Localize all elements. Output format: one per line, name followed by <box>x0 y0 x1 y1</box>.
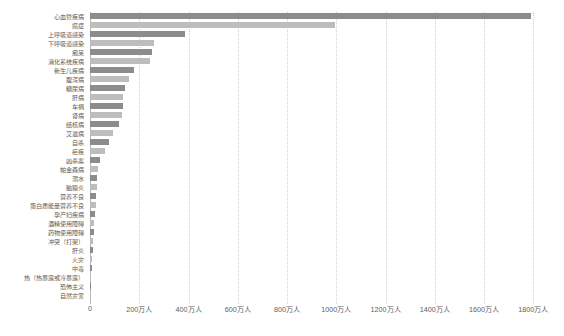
category-label-column: 心血管疾病癌症上呼吸道感染下呼吸道感染痴呆消化系统疾病新生儿疾病腹泻病糖尿病肝病… <box>0 12 88 300</box>
bar-row <box>90 120 558 129</box>
bar-痴呆 <box>90 49 152 56</box>
bar-心血管疾病 <box>90 13 531 20</box>
bar-车祸 <box>90 103 123 110</box>
category-label-肝病: 肝病 <box>72 93 84 102</box>
x-tick-label-800: 800万人 <box>274 304 300 314</box>
bar-row <box>90 273 558 282</box>
bar-结核病 <box>90 121 119 128</box>
x-tick-label-1600: 1600万人 <box>469 304 499 314</box>
bar-疟疾 <box>90 148 105 155</box>
bar-row <box>90 192 558 201</box>
bar-癌症 <box>90 22 335 29</box>
category-label-痴呆: 痴呆 <box>72 48 84 57</box>
category-label-癌症: 癌症 <box>72 21 84 30</box>
bar-自杀 <box>90 139 109 146</box>
bar-row <box>90 102 558 111</box>
x-tick-label-1000: 1000万人 <box>321 304 351 314</box>
category-label-自杀: 自杀 <box>72 138 84 147</box>
bar-row <box>90 246 558 255</box>
category-label-脑膜炎: 脑膜炎 <box>66 183 84 192</box>
bar-消化系统疾病 <box>90 58 150 65</box>
category-label-营养不良: 营养不良 <box>60 192 84 201</box>
bar-row <box>90 75 558 84</box>
bar-孕产妇疾病 <box>90 211 95 218</box>
bar-row <box>90 156 558 165</box>
bar-新生儿疾病 <box>90 67 134 74</box>
category-label-孕产妇疾病: 孕产妇疾病 <box>54 210 84 219</box>
bar-糖尿病 <box>90 85 125 92</box>
bar-row <box>90 282 558 291</box>
bar-row <box>90 174 558 183</box>
bar-row <box>90 210 558 219</box>
category-label-火灾: 火灾 <box>72 255 84 264</box>
category-label-帕金森病: 帕金森病 <box>60 165 84 174</box>
bar-row <box>90 12 558 21</box>
x-tick-label-1200: 1200万人 <box>371 304 401 314</box>
bar-上呼吸道感染 <box>90 31 185 38</box>
bar-row <box>90 147 558 156</box>
category-label-腹泻病: 腹泻病 <box>66 75 84 84</box>
bar-row <box>90 255 558 264</box>
category-label-恐怖主义: 恐怖主义 <box>60 282 84 291</box>
category-label-溺水: 溺水 <box>72 174 84 183</box>
bar-肾病 <box>90 112 122 119</box>
category-label-新生儿疾病: 新生儿疾病 <box>54 66 84 75</box>
category-label-肾病: 肾病 <box>72 111 84 120</box>
bar-下呼吸道感染 <box>90 40 154 47</box>
category-label-肝炎: 肝炎 <box>72 246 84 255</box>
x-tick-label-600: 600万人 <box>225 304 251 314</box>
bar-row <box>90 30 558 39</box>
bar-row <box>90 111 558 120</box>
bar-酒精使用障碍 <box>90 220 94 227</box>
bar-艾滋病 <box>90 130 113 137</box>
bar-冲突（打架） <box>90 238 93 245</box>
bar-row <box>90 138 558 147</box>
category-label-热（热暴露或冷暴露）: 热（热暴露或冷暴露） <box>24 273 84 282</box>
bar-肝炎 <box>90 247 93 254</box>
category-label-酒精使用障碍: 酒精使用障碍 <box>48 219 84 228</box>
category-label-车祸: 车祸 <box>72 102 84 111</box>
bar-row <box>90 237 558 246</box>
bar-恐怖主义 <box>90 283 91 290</box>
bar-溺水 <box>90 175 97 182</box>
category-label-艾滋病: 艾滋病 <box>66 129 84 138</box>
bar-自然灾害 <box>90 292 91 299</box>
causes-of-death-bar-chart: 心血管疾病癌症上呼吸道感染下呼吸道感染痴呆消化系统疾病新生儿疾病腹泻病糖尿病肝病… <box>0 0 564 336</box>
bar-row <box>90 21 558 30</box>
bar-药物使用障碍 <box>90 229 94 236</box>
bar-row <box>90 201 558 210</box>
category-label-自然灾害: 自然灾害 <box>60 291 84 300</box>
category-label-中毒: 中毒 <box>72 264 84 273</box>
chart-plot-area <box>90 12 558 300</box>
bar-凶杀案 <box>90 157 100 164</box>
bar-row <box>90 264 558 273</box>
category-label-糖尿病: 糖尿病 <box>66 84 84 93</box>
bar-row <box>90 183 558 192</box>
bar-row <box>90 57 558 66</box>
category-label-下呼吸道感染: 下呼吸道感染 <box>48 39 84 48</box>
bar-肝病 <box>90 94 123 101</box>
bar-营养不良 <box>90 193 96 200</box>
bar-腹泻病 <box>90 76 129 83</box>
category-label-心血管疾病: 心血管疾病 <box>54 12 84 21</box>
bar-row <box>90 66 558 75</box>
bar-row <box>90 39 558 48</box>
category-label-冲突（打架）: 冲突（打架） <box>48 237 84 246</box>
bar-脑膜炎 <box>90 184 97 191</box>
bar-row <box>90 129 558 138</box>
x-tick-label-200: 200万人 <box>126 304 152 314</box>
x-axis: 0200万人400万人600万人800万人1000万人1200万人1400万人1… <box>90 300 558 320</box>
category-label-药物使用障碍: 药物使用障碍 <box>48 228 84 237</box>
category-label-结核病: 结核病 <box>66 120 84 129</box>
x-tick-label-1400: 1400万人 <box>420 304 450 314</box>
bar-row <box>90 228 558 237</box>
bar-蛋白质能量营养不良 <box>90 202 96 209</box>
category-label-凶杀案: 凶杀案 <box>66 156 84 165</box>
category-label-上呼吸道感染: 上呼吸道感染 <box>48 30 84 39</box>
bar-row <box>90 219 558 228</box>
category-label-消化系统疾病: 消化系统疾病 <box>48 57 84 66</box>
bar-中毒 <box>90 265 92 272</box>
bar-row <box>90 165 558 174</box>
x-tick-label-0: 0 <box>88 304 92 313</box>
bar-row <box>90 48 558 57</box>
